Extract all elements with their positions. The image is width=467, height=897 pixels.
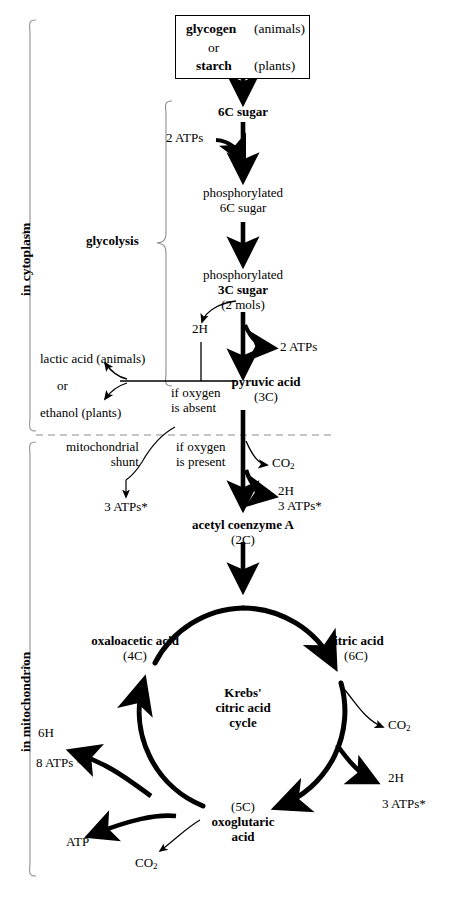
oxygen-absent-line1: if oxygen — [171, 385, 220, 400]
krebs-cycle-center-label: Krebs' citric acid cycle — [215, 686, 270, 730]
citric-line1: citric acid — [328, 633, 383, 648]
krebs-line3: cycle — [229, 715, 256, 730]
source-or-label: or — [208, 40, 219, 56]
label-co2-oxoglutaric: CO2 — [135, 856, 158, 871]
label-if-oxygen-present: if oxygen is present — [176, 440, 225, 470]
krebs-arc-top-right — [243, 608, 333, 663]
oxygen-present-line1: if oxygen — [176, 439, 225, 454]
label-ethanol: ethanol (plants) — [40, 406, 121, 421]
label-mitochondrial-shunt: mitochondrial shunt — [66, 440, 139, 470]
label-if-oxygen-absent: if oxygen is absent — [171, 386, 220, 416]
arrow-co2-citric — [345, 690, 383, 727]
oxoglutaric-line2: oxoglutaric — [212, 814, 275, 829]
acetyl-line1: acetyl coenzyme A — [192, 517, 294, 532]
pyruvic-line1: pyruvic acid — [232, 374, 301, 389]
node-phosphorylated-3c-sugar: phosphorylated 3C sugar (2 mols) — [203, 268, 283, 312]
label-atp-substrate: ATP — [66, 835, 89, 850]
label-2atps-produced: 2 ATPs — [280, 340, 317, 355]
label-2h-glycolysis: 2H — [192, 322, 208, 337]
krebs-line1: Krebs' — [224, 685, 261, 700]
label-shunt-3atps: 3 ATPs* — [104, 500, 148, 515]
arrow-2atps-in — [216, 140, 243, 160]
shunt-line2: shunt — [111, 454, 139, 469]
node-phosphorylated-6c-sugar: phosphorylated 6C sugar — [203, 186, 283, 216]
node-6c-sugar: 6C sugar — [218, 105, 268, 120]
krebs-arc-right — [280, 683, 345, 806]
label-2h-3atps-pyruvic: 2H 3 ATPs* — [278, 484, 322, 514]
phos3c-line3: (2 mols) — [221, 297, 265, 312]
oxaloacetic-line1: oxaloacetic acid — [91, 633, 179, 648]
source-substrate-box: glycogen (animals) or starch (plants) — [175, 15, 310, 79]
arrow-atp-substrate — [91, 816, 176, 835]
label-6h-krebs: 6H — [38, 726, 54, 741]
arrow-2h-pyruvic — [246, 470, 272, 496]
arrow-co2-pyruvic — [246, 441, 267, 465]
node-oxaloacetic-acid: oxaloacetic acid (4C) — [91, 634, 179, 664]
source-plants-label: (plants) — [254, 58, 295, 74]
label-fermentation-or: or — [57, 379, 68, 394]
compartment-label-mitochondrion: in mitochondrion — [18, 652, 34, 752]
label-co2-pyruvic: CO2 — [272, 456, 295, 471]
node-oxoglutaric-acid: (5C) oxoglutaric acid — [212, 800, 275, 844]
compartment-label-cytoplasm: in cytoplasm — [18, 223, 34, 296]
acetyl-3atps: 3 ATPs* — [278, 498, 322, 513]
node-acetyl-coenzyme-a: acetyl coenzyme A (2C) — [192, 518, 294, 548]
oxaloacetic-line2: (4C) — [123, 648, 147, 663]
label-lactic-acid: lactic acid (animals) — [40, 352, 145, 367]
bracket-label-glycolysis: glycolysis — [86, 234, 139, 249]
arrow-to-ethanol — [105, 383, 127, 399]
acetyl-2h: 2H — [278, 483, 294, 498]
respiration-diagram: in cytoplasm in mitochondrion glycolysis… — [0, 0, 467, 897]
shunt-line1: mitochondrial — [66, 439, 139, 454]
node-citric-acid: citric acid (6C) — [328, 634, 383, 664]
pyruvic-line2: (3C) — [254, 389, 278, 404]
arrow-6h-krebs — [73, 752, 151, 796]
phos6c-line1: phosphorylated — [203, 185, 283, 200]
krebs-arc-left — [139, 684, 203, 806]
arrow-2h-citric — [337, 745, 374, 781]
krebs-line2: citric acid — [215, 700, 270, 715]
label-8atps-krebs: 8 ATPs * — [36, 756, 83, 771]
oxygen-absent-line2: is absent — [171, 400, 216, 415]
citric-line2: (6C) — [344, 648, 368, 663]
label-2h-krebs: 2H — [388, 771, 404, 786]
source-animals-label: (animals) — [254, 21, 305, 37]
label-3atps-krebs: 3 ATPs* — [382, 797, 426, 812]
node-pyruvic-acid: pyruvic acid (3C) — [232, 375, 301, 405]
source-glycogen-label: glycogen — [186, 21, 236, 37]
oxygen-present-line2: is present — [176, 454, 225, 469]
phos6c-line2: 6C sugar — [220, 200, 267, 215]
oxoglutaric-line1: (5C) — [231, 799, 255, 814]
arrow-2atps-out — [245, 325, 272, 348]
arrow-co2-oxoglutaric — [160, 820, 200, 851]
label-co2-citric: CO2 — [388, 718, 411, 733]
source-starch-label: starch — [196, 58, 232, 74]
phos3c-line2: 3C sugar — [218, 282, 268, 297]
oxoglutaric-line3: acid — [231, 829, 254, 844]
label-2atps-consumed: 2 ATPs — [166, 131, 203, 146]
phos3c-line1: phosphorylated — [203, 267, 283, 282]
acetyl-line2: (2C) — [231, 532, 255, 547]
